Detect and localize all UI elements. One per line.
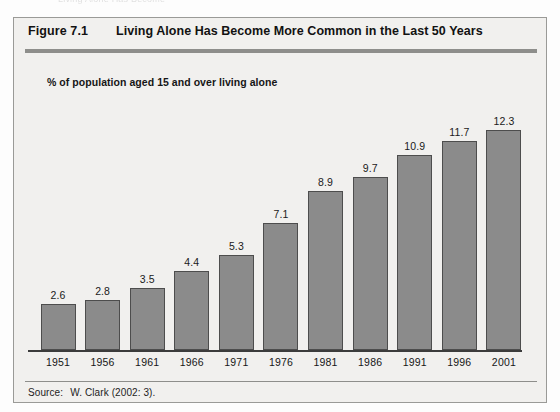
bar-rect (174, 271, 209, 350)
bar-rect (219, 255, 254, 350)
bar-value-label: 9.7 (363, 162, 378, 174)
bar-rect (41, 304, 76, 350)
bar-rect (263, 223, 298, 350)
header-rule (25, 49, 537, 53)
bar-value-label: 10.9 (404, 140, 425, 152)
x-tick-label: 1976 (261, 356, 301, 374)
source-rule (25, 381, 537, 382)
bar-value-label: 2.6 (51, 289, 66, 301)
bar-item: 11.7 (439, 92, 479, 350)
x-axis-line (28, 350, 522, 352)
source-label: Source: (28, 387, 63, 398)
bar-value-label: 11.7 (449, 126, 469, 138)
x-tick-label: 1971 (216, 356, 256, 374)
bar-item: 8.9 (306, 92, 346, 350)
chart-subtitle: % of population aged 15 and over living … (47, 76, 277, 88)
figure-header: Figure 7.1 Living Alone Has Become More … (14, 18, 546, 51)
bar-rect (353, 177, 388, 350)
x-tick-label: 1996 (439, 356, 479, 374)
top-text-fragment: Living Alone Has Become (58, 0, 165, 4)
bar-item: 2.8 (83, 92, 123, 350)
x-tick-label: 1966 (172, 356, 212, 374)
figure-number: Figure 7.1 (28, 24, 88, 38)
bar-rect (85, 300, 120, 350)
x-axis-tick-labels: 1951195619611966197119761981198619911996… (32, 356, 530, 374)
bar-item: 3.5 (127, 92, 167, 350)
x-tick-label: 1986 (350, 356, 390, 374)
source-text: W. Clark (2002: 3). (70, 387, 155, 398)
bar-rect (486, 130, 521, 350)
x-tick-label: 1956 (83, 356, 123, 374)
bar-rect (130, 288, 165, 350)
source-note: Source:W. Clark (2002: 3). (28, 387, 155, 398)
bar-value-label: 8.9 (318, 176, 333, 188)
plot-area: 2.62.83.54.45.37.18.99.710.911.712.3 (32, 92, 530, 350)
bar-rect (397, 155, 432, 350)
bar-item: 10.9 (395, 92, 435, 350)
bar-value-label: 4.4 (184, 256, 199, 268)
figure-panel: Figure 7.1 Living Alone Has Become More … (13, 17, 547, 403)
top-text-artifact: Living Alone Has Become (0, 0, 560, 14)
x-tick-label: 1991 (395, 356, 435, 374)
bar-rect (308, 191, 343, 350)
x-tick-label: 2001 (484, 356, 524, 374)
bar-item: 5.3 (216, 92, 256, 350)
bar-item: 4.4 (172, 92, 212, 350)
bar-value-label: 7.1 (274, 208, 289, 220)
bar-series: 2.62.83.54.45.37.18.99.710.911.712.3 (32, 92, 530, 350)
bar-value-label: 3.5 (140, 273, 155, 285)
bar-item: 12.3 (484, 92, 524, 350)
bar-item: 7.1 (261, 92, 301, 350)
bar-value-label: 5.3 (229, 240, 244, 252)
bar-rect (442, 141, 477, 350)
figure-title: Living Alone Has Become More Common in t… (116, 24, 483, 38)
x-tick-label: 1951 (38, 356, 78, 374)
page-background: Living Alone Has Become Figure 7.1 Livin… (0, 0, 560, 412)
bar-value-label: 2.8 (95, 285, 110, 297)
x-tick-label: 1961 (127, 356, 167, 374)
bar-item: 2.6 (38, 92, 78, 350)
bar-item: 9.7 (350, 92, 390, 350)
x-tick-label: 1981 (306, 356, 346, 374)
bar-value-label: 12.3 (494, 115, 515, 127)
